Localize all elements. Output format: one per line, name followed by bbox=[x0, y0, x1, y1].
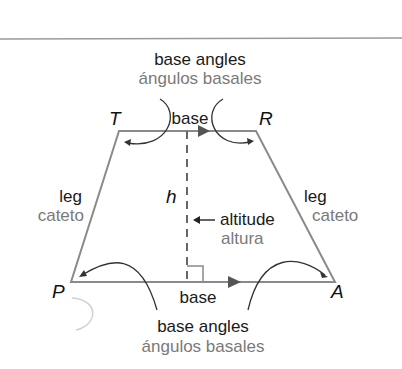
bottom-base-label: base bbox=[180, 288, 217, 307]
left-leg-label: leg bbox=[59, 187, 82, 206]
height-symbol: h bbox=[166, 186, 177, 207]
stray-mark bbox=[72, 298, 93, 330]
bottom-base-angles-label: base angles bbox=[157, 317, 249, 336]
top-base-angles-label: base angles bbox=[154, 50, 246, 69]
parallel-arrow-bottom-icon bbox=[228, 276, 241, 288]
top-base-label: base bbox=[172, 109, 209, 128]
top-base-angles-label-es: ángulos basales bbox=[139, 69, 262, 88]
trapezoid-shape bbox=[71, 131, 335, 282]
altitude-label: altitude bbox=[220, 210, 275, 229]
arrowhead-R-icon bbox=[247, 138, 254, 145]
vertex-P: P bbox=[52, 281, 65, 302]
altitude-label-es: altura bbox=[221, 229, 264, 248]
vertex-A: A bbox=[330, 281, 344, 302]
arrowhead-A-icon bbox=[320, 272, 328, 278]
right-angle-icon bbox=[187, 266, 203, 282]
altitude-pointer-icon bbox=[193, 216, 200, 224]
angle-arc-R-icon bbox=[212, 99, 250, 143]
angle-arc-T-icon bbox=[128, 99, 170, 144]
right-leg-label-es: cateto bbox=[312, 206, 358, 225]
vertex-T: T bbox=[109, 108, 122, 129]
bottom-base-angles-label-es: ángulos basales bbox=[142, 337, 265, 356]
vertex-R: R bbox=[259, 108, 273, 129]
left-leg-label-es: cateto bbox=[38, 206, 84, 225]
angle-arc-P-icon bbox=[82, 263, 157, 310]
arrowhead-T-icon bbox=[124, 139, 131, 146]
divider-line bbox=[0, 38, 402, 39]
angle-arc-A-icon bbox=[248, 261, 325, 310]
right-leg-label: leg bbox=[304, 187, 327, 206]
trapezoid-diagram: base angles ángulos basales base T R P A… bbox=[0, 0, 402, 369]
